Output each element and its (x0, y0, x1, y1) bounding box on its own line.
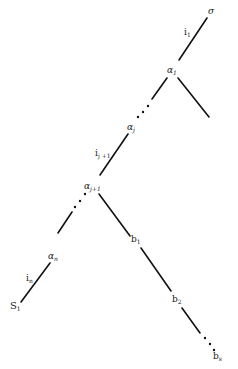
node-root-label: σ (208, 6, 215, 16)
node-alphaj1-label: αj+1 (84, 181, 101, 193)
node-bs-label: bs (213, 351, 222, 362)
node-alphaj-label: αj (127, 122, 135, 134)
edge-alphaj1-b1 (99, 194, 130, 236)
edge-root-alpha1 (179, 18, 207, 60)
edge-alpha1-down-left (152, 78, 167, 99)
edge-alpha1-right (178, 78, 209, 117)
edge-label-ij1: ij +1 (95, 148, 111, 160)
ellipsis-dots-3 (204, 337, 215, 351)
ellipsis-dots-2 (74, 193, 86, 208)
node-b2-label: b2 (172, 294, 182, 305)
node-alpha1-label: α1 (167, 65, 177, 76)
edge-b1-b2 (141, 248, 171, 291)
edge-label-in: in (26, 273, 33, 284)
edge-b2-down (182, 308, 200, 333)
edge-alphaj1-down-left (58, 212, 72, 233)
node-alphan-label: αn (48, 251, 58, 262)
tree-diagram: σ α1 αj αj+1 αn S1 b1 b2 bs i1 ij +1 in (0, 0, 238, 369)
node-b1-label: b1 (131, 234, 141, 245)
ellipsis-dots-1 (137, 105, 149, 118)
edge-label-i1: i1 (184, 27, 191, 38)
node-s1-label: S1 (10, 300, 21, 312)
